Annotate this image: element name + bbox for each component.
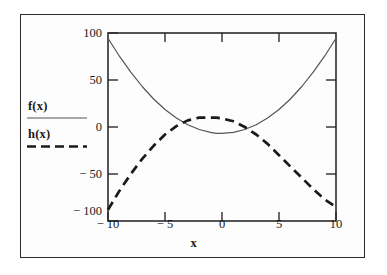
series-line-f: [108, 38, 336, 133]
series-line-h: [108, 118, 336, 210]
chart-figure: f(x) h(x): [0, 0, 387, 275]
xtick-label-neg5: − 5: [145, 218, 185, 231]
xtick-label-0: 0: [202, 218, 242, 231]
xtick-label-neg10: − 10: [88, 218, 128, 231]
axis-spines: [108, 33, 336, 221]
ytick-label-100: 100: [62, 27, 102, 40]
ytick-label-50: 50: [62, 74, 102, 87]
ytick-label-0: 0: [62, 121, 102, 134]
xtick-label-10: 10: [316, 218, 356, 231]
ytick-label-neg50: − 50: [55, 168, 102, 181]
plot-area: [108, 33, 336, 211]
xtick-label-5: 5: [259, 218, 299, 231]
xaxis-title: x: [0, 236, 387, 251]
axis-ticks: [108, 33, 336, 221]
ytick-label-neg100: − 100: [50, 205, 102, 218]
